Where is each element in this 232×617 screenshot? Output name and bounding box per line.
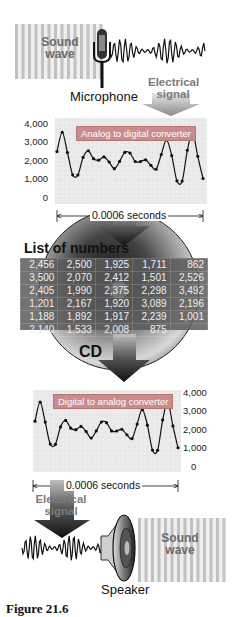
sample-point [110, 429, 113, 432]
sample-point [61, 131, 64, 134]
table-cell: 3,089 [133, 298, 170, 311]
sample-point [196, 155, 199, 158]
table-row: 2,4051,9902,3752,2983,492 [21, 285, 208, 298]
dac-y-tick: 3,000 [183, 405, 207, 416]
table-cell: 2,405 [21, 285, 58, 298]
sample-point [134, 160, 137, 163]
table-cell: 1,925 [95, 259, 132, 272]
sample-point [125, 433, 128, 436]
adc-y-tick: 1,000 [14, 173, 48, 184]
table-cell: 2,500 [58, 259, 95, 272]
sample-point [81, 156, 84, 159]
sample-point [59, 425, 62, 428]
adc-y-tick: 4,000 [14, 118, 48, 129]
table-cell: 2,167 [58, 298, 95, 311]
sample-point [181, 179, 184, 182]
sample-point [118, 160, 121, 163]
sample-point [105, 421, 108, 424]
sound-wave-bottom-label: Sound wave [152, 532, 208, 556]
sample-point [64, 419, 67, 422]
table-cell: 1,001 [170, 311, 207, 324]
sample-point [95, 429, 98, 432]
sample-point [84, 430, 87, 433]
table-cell: 1,920 [95, 298, 132, 311]
electrical-signal-bottom-line2: signal [32, 505, 90, 517]
table-cell: 2,070 [58, 272, 95, 285]
table-cell: 2,298 [133, 285, 170, 298]
adc-y-tick: 2,000 [14, 155, 48, 166]
dac-duration-label: 0.0006 seconds [64, 479, 142, 491]
sample-point [97, 159, 100, 162]
microphone-label: Microphone [70, 89, 138, 104]
table-cell: 875 [133, 324, 170, 337]
sample-point [149, 164, 152, 167]
dac-y-tick: 1,000 [183, 442, 207, 453]
table-cell: 2,239 [133, 311, 170, 324]
table-cell: 2,456 [21, 259, 58, 272]
table-cell: 2,412 [95, 272, 132, 285]
sample-point [66, 151, 69, 154]
sample-point [44, 421, 47, 424]
sample-point [156, 449, 159, 452]
table-cell: 2,196 [170, 298, 207, 311]
speaker-icon [101, 515, 135, 581]
table-cell: 1,188 [21, 311, 58, 324]
sample-point [176, 446, 179, 449]
sample-point [128, 151, 131, 154]
table-cell: 2,526 [170, 272, 207, 285]
table-cell: 2,140 [21, 324, 58, 337]
sample-point [139, 160, 142, 163]
table-cell: 1,917 [95, 311, 132, 324]
electrical-signal-top-line2: signal [148, 88, 198, 100]
dac-y-tick: 4,000 [183, 387, 207, 398]
electrical-signal-bottom-line1: Electrical [32, 493, 90, 505]
sample-point [102, 155, 105, 158]
sample-point [49, 442, 52, 445]
table-row: 2,1401,5332,008875 [21, 324, 208, 337]
sample-point [76, 173, 79, 176]
numbers-table: 2,4562,5001,9251,7118623,5002,0702,4121,… [20, 258, 208, 337]
adc-duration-label: 0.0006 seconds [90, 209, 168, 221]
figure-caption: Figure 21.6 [6, 601, 69, 617]
adc-y-tick: 3,000 [14, 136, 48, 147]
sample-point [171, 424, 174, 427]
adc-y-tick: 0 [14, 192, 48, 203]
table-cell: 862 [170, 259, 207, 272]
sample-point [186, 149, 189, 152]
dac-y-tick: 0 [191, 461, 196, 472]
sound-wave-top-line2: wave [32, 48, 88, 60]
sample-point [69, 427, 72, 430]
sample-point [201, 177, 204, 180]
table-cell: 1,501 [133, 272, 170, 285]
sample-point [92, 157, 95, 160]
adc-converter-label: Analog to digital converter [76, 126, 196, 141]
table-cell: 1,533 [58, 324, 95, 337]
sample-point [90, 436, 93, 439]
table-row: 1,2012,1671,9203,0892,196 [21, 298, 208, 311]
sample-point [151, 448, 154, 451]
sample-point [108, 160, 111, 163]
table-row: 2,4562,5001,9251,711862 [21, 259, 208, 272]
sample-point [160, 153, 163, 156]
sample-point [120, 428, 123, 431]
electrical-signal-bottom-label: Electrical signal [32, 493, 90, 517]
dac-converter-label: Digital to analog converter [53, 394, 173, 409]
sample-point [130, 437, 133, 440]
sample-point [161, 418, 164, 421]
sample-point [115, 429, 118, 432]
list-of-numbers-title: List of numbers [24, 240, 129, 256]
sample-point [39, 401, 42, 404]
table-cell: 1,201 [21, 298, 58, 311]
cd-label: CD [79, 343, 102, 361]
sample-point [71, 173, 74, 176]
electrical-signal-wave-top [110, 39, 205, 64]
sample-point [79, 425, 82, 428]
dac-y-tick: 2,000 [183, 424, 207, 435]
sample-point [175, 179, 178, 182]
sample-point [170, 154, 173, 157]
sample-point [136, 422, 139, 425]
electrical-signal-wave-bottom [22, 536, 104, 561]
table-cell: 1,892 [58, 311, 95, 324]
sample-point [113, 167, 116, 170]
